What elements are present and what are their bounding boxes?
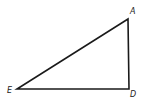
triangle-AED [17,19,129,89]
vertex-label-a: A [129,7,135,16]
vertex-label-e: E [7,86,13,95]
triangle-diagram: A E D [0,0,147,111]
vertex-label-d: D [130,90,136,99]
